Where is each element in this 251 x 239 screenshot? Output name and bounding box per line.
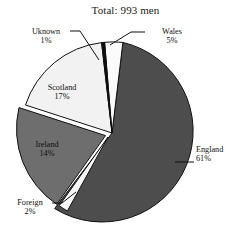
pie-label-england-name: England — [196, 145, 248, 154]
pie-label-foreign: Foreign 2% — [6, 198, 54, 217]
pie-label-wales-name: Wales — [148, 27, 196, 36]
pie-chart-figure: Total: 993 men Uknown 1% Wales 5% Scotl — [0, 0, 251, 239]
pie-label-unknown-name: Uknown — [19, 27, 73, 36]
pie-label-foreign-value: 2% — [6, 207, 54, 216]
pie-label-scotland-value: 17% — [32, 92, 92, 101]
pie-label-england: England 61% — [196, 145, 248, 164]
pie-label-wales: Wales 5% — [148, 27, 196, 46]
pie-label-england-value: 61% — [196, 154, 248, 163]
pie-label-unknown: Uknown 1% — [19, 27, 73, 46]
pie-label-foreign-name: Foreign — [6, 198, 54, 207]
pie-label-scotland: Scotland 17% — [32, 83, 92, 102]
pie-label-wales-value: 5% — [148, 36, 196, 45]
pie-label-ireland: Ireland 14% — [20, 140, 74, 159]
pie-label-ireland-name: Ireland — [20, 140, 74, 149]
pie-label-scotland-name: Scotland — [32, 83, 92, 92]
pie-label-unknown-value: 1% — [19, 36, 73, 45]
pie-label-ireland-value: 14% — [20, 149, 74, 158]
